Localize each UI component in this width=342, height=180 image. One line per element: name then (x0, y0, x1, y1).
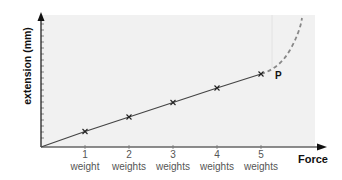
y-axis-title: extension (mm) (21, 27, 33, 105)
tick-word: weights (199, 161, 234, 172)
tick-word: weights (111, 161, 146, 172)
tick-num: 4 (214, 149, 220, 160)
tick-word: weights (155, 161, 190, 172)
tick-word: weight (70, 161, 100, 172)
tick-num: 5 (258, 149, 264, 160)
tick-word: weights (243, 161, 278, 172)
plot-area (41, 15, 315, 147)
tick-num: 3 (170, 149, 176, 160)
point-p-label: P (275, 70, 282, 81)
chart: P 1 weight 2 weights 3 weights 4 weights… (0, 0, 342, 180)
x-axis-arrow-icon (317, 144, 327, 151)
tick-num: 1 (82, 149, 88, 160)
x-axis-title: Force (298, 153, 328, 165)
x-tick-labels: 1 weight 2 weights 3 weights 4 weights 5… (70, 149, 278, 172)
tick-num: 2 (126, 149, 132, 160)
